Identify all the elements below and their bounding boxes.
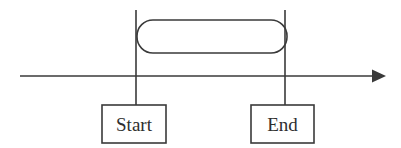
timeline-diagram: Start End (0, 0, 401, 148)
marker-label-start: Start (116, 114, 153, 135)
duration-stadium (137, 20, 287, 53)
arrow-right-icon (372, 70, 386, 83)
marker-label-end: End (267, 114, 298, 135)
diagram-canvas: Start End (0, 0, 401, 148)
